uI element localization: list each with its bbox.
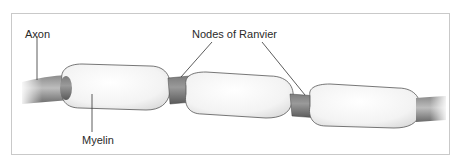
axon-right	[416, 92, 448, 126]
nodes-of-ranvier-label: Nodes of Ranvier	[192, 28, 277, 40]
axon-label: Axon	[25, 28, 50, 40]
axon-diagram	[0, 0, 463, 166]
myelin-segment-2	[186, 72, 294, 118]
myelin-segment-3	[310, 84, 421, 128]
myelin-label: Myelin	[82, 134, 114, 146]
myelin-segment-1	[60, 64, 170, 110]
